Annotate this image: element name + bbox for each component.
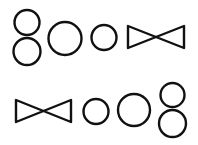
- top-row: [14, 10, 185, 65]
- large-circle-icon: [49, 22, 82, 55]
- small-circle-icon: [84, 99, 109, 124]
- bowtie-icon: [16, 100, 71, 122]
- small-circle-icon: [92, 25, 117, 50]
- shapes-canvas: [0, 0, 198, 145]
- figure-eight-icon: [159, 83, 186, 137]
- large-circle-icon: [118, 94, 150, 126]
- bowtie-icon: [128, 26, 184, 48]
- figure-eight-icon: [14, 10, 41, 65]
- bottom-row: [16, 83, 186, 137]
